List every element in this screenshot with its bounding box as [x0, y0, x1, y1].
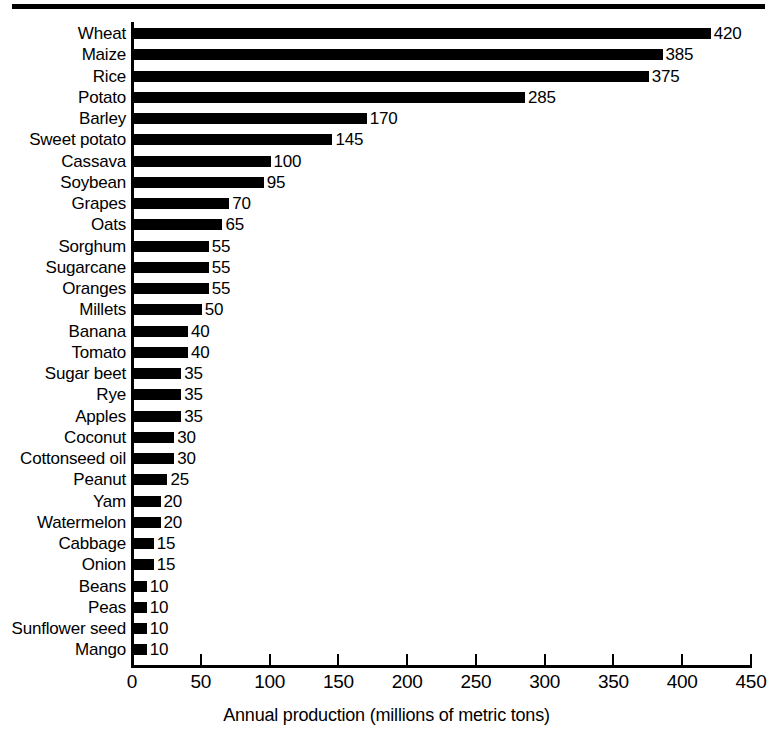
bar-value-label: 15 [157, 535, 176, 552]
bar-value-label: 20 [164, 514, 183, 531]
category-label: Cabbage [58, 535, 126, 552]
bar-value-label: 95 [267, 174, 286, 191]
bar [133, 134, 332, 145]
bar [133, 219, 222, 230]
x-axis-tick [475, 654, 477, 665]
category-label: Tomato [71, 344, 126, 361]
bar-value-label: 30 [177, 429, 196, 446]
bar [133, 262, 209, 273]
category-label: Sugarcane [46, 259, 126, 276]
category-label: Maize [82, 46, 126, 63]
x-axis-tick-label: 200 [392, 672, 423, 691]
category-label: Yam [93, 493, 126, 510]
category-label: Rye [96, 386, 126, 403]
bar-value-label: 385 [666, 46, 694, 63]
bar-value-label: 100 [274, 153, 302, 170]
category-label: Beans [79, 578, 126, 595]
x-axis-tick [750, 654, 752, 665]
category-label: Watermelon [37, 514, 126, 531]
x-axis-tick [131, 654, 133, 665]
bar-value-label: 10 [150, 578, 169, 595]
bar-value-label: 10 [150, 599, 169, 616]
category-label: Apples [75, 408, 126, 425]
bar [133, 453, 174, 464]
category-label: Banana [69, 323, 126, 340]
category-label: Cassava [61, 153, 126, 170]
bar [133, 241, 209, 252]
bar-value-label: 30 [177, 450, 196, 467]
category-label: Barley [79, 110, 126, 127]
bar-value-label: 25 [170, 471, 189, 488]
bar-value-label: 145 [335, 131, 363, 148]
x-axis-tick-label: 100 [254, 672, 285, 691]
category-label: Onion [82, 556, 126, 573]
category-label: Sunflower seed [12, 620, 126, 637]
category-label: Mango [75, 641, 126, 658]
x-axis-tick [200, 654, 202, 665]
bar [133, 177, 264, 188]
bar [133, 113, 367, 124]
x-axis-tick-label: 50 [190, 672, 211, 691]
category-label: Sugar beet [45, 365, 126, 382]
category-label: Peanut [73, 471, 126, 488]
bar-value-label: 50 [205, 301, 224, 318]
bar [133, 347, 188, 358]
category-label: Cottonseed oil [20, 450, 126, 467]
category-label: Peas [88, 599, 126, 616]
bar [133, 581, 147, 592]
bar [133, 474, 167, 485]
x-axis-tick [337, 654, 339, 665]
category-label: Wheat [78, 25, 126, 42]
bar [133, 368, 181, 379]
category-label: Coconut [64, 429, 126, 446]
bar-value-label: 10 [150, 620, 169, 637]
bar-value-label: 40 [191, 323, 210, 340]
bar-value-label: 35 [184, 365, 203, 382]
bar [133, 602, 147, 613]
category-label: Rice [93, 68, 126, 85]
bar [133, 389, 181, 400]
category-label: Sweet potato [29, 131, 126, 148]
category-label: Sorghum [58, 238, 126, 255]
bar-value-label: 420 [714, 25, 742, 42]
x-axis-title: Annual production (millions of metric to… [0, 706, 773, 724]
x-axis-tick [406, 654, 408, 665]
x-axis-tick [681, 654, 683, 665]
category-label: Oranges [62, 280, 126, 297]
x-axis-tick-label: 450 [736, 672, 767, 691]
bar-value-label: 20 [164, 493, 183, 510]
bar-value-label: 10 [150, 641, 169, 658]
bar [133, 49, 663, 60]
x-axis-tick [544, 654, 546, 665]
x-axis-line [131, 665, 752, 668]
bar-value-label: 55 [212, 280, 231, 297]
bar [133, 517, 161, 528]
bar [133, 432, 174, 443]
bar [133, 496, 161, 507]
x-axis-tick-label: 300 [529, 672, 560, 691]
category-label: Oats [91, 216, 126, 233]
category-label: Millets [79, 301, 126, 318]
category-label: Potato [78, 89, 126, 106]
bar-value-label: 65 [225, 216, 244, 233]
x-axis-tick-label: 250 [460, 672, 491, 691]
bar-value-label: 55 [212, 259, 231, 276]
bar-value-label: 285 [528, 89, 556, 106]
bar [133, 283, 209, 294]
bar [133, 326, 188, 337]
bar-value-label: 35 [184, 386, 203, 403]
bar [133, 198, 229, 209]
bar-chart-plot-area: Wheat420Maize385Rice375Potato285Barley17… [0, 0, 773, 740]
bar-value-label: 170 [370, 110, 398, 127]
category-label: Soybean [60, 174, 126, 191]
bar [133, 411, 181, 422]
bar-value-label: 35 [184, 408, 203, 425]
bar-value-label: 15 [157, 556, 176, 573]
category-label: Grapes [71, 195, 126, 212]
bar [133, 623, 147, 634]
bar [133, 304, 202, 315]
x-axis-tick-label: 350 [598, 672, 629, 691]
bar [133, 538, 154, 549]
x-axis-tick-label: 400 [667, 672, 698, 691]
x-axis-tick-label: 0 [127, 672, 137, 691]
